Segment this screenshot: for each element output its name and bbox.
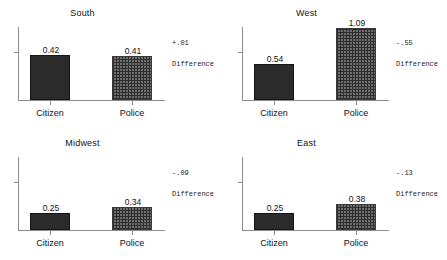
difference-value: +.01 xyxy=(172,40,230,47)
difference-annotation: -.55 Difference xyxy=(396,40,447,68)
bar-citizen: 0.54 xyxy=(254,64,294,100)
x-axis-label-citizen: Citizen xyxy=(243,108,305,118)
small-multiples-bar-chart-figure: South 0.42 0.41 Citizen Police +.01 Diff… xyxy=(0,0,447,260)
x-axis-tick-police xyxy=(132,100,133,105)
y-axis-tick xyxy=(14,52,18,53)
difference-caption: Difference xyxy=(396,191,447,198)
x-axis-tick-police xyxy=(132,230,133,235)
x-axis-label-police: Police xyxy=(325,238,387,248)
panel-title: East xyxy=(224,138,389,148)
difference-annotation: -.13 Difference xyxy=(396,170,447,198)
chart-panel-midwest: Midwest 0.25 0.34 Citizen Police -.09 Di… xyxy=(0,130,223,260)
difference-value: -.09 xyxy=(172,170,230,177)
bar-value-label: 1.09 xyxy=(331,18,383,29)
bar-value-label: 0.41 xyxy=(107,46,159,57)
chart-panel-east: East 0.25 0.38 Citizen Police -.13 Diffe… xyxy=(224,130,447,260)
difference-caption: Difference xyxy=(172,61,230,68)
bar-citizen: 0.42 xyxy=(30,55,70,100)
difference-value: -.55 xyxy=(396,40,447,47)
bar-value-label: 0.34 xyxy=(107,197,159,208)
x-axis-label-police: Police xyxy=(325,108,387,118)
bar-police: 0.38 xyxy=(336,204,376,230)
bar-value-label: 0.54 xyxy=(249,54,301,65)
difference-caption: Difference xyxy=(396,61,447,68)
bar-value-label: 0.42 xyxy=(25,45,77,56)
y-axis-line xyxy=(18,27,19,101)
y-axis-tick xyxy=(14,182,18,183)
panel-title: South xyxy=(0,8,165,18)
y-axis-tick xyxy=(238,182,242,183)
x-axis-label-police: Police xyxy=(101,108,163,118)
bar-value-label: 0.25 xyxy=(249,203,301,214)
bar-police: 1.09 xyxy=(336,28,376,100)
x-axis-line xyxy=(18,230,165,231)
bar-police: 0.41 xyxy=(112,56,152,100)
x-axis-tick-police xyxy=(356,230,357,235)
x-axis-label-citizen: Citizen xyxy=(19,238,81,248)
bar-citizen: 0.25 xyxy=(254,213,294,230)
difference-caption: Difference xyxy=(172,191,230,198)
difference-annotation: -.09 Difference xyxy=(172,170,230,198)
x-axis-line xyxy=(242,230,389,231)
x-axis-tick-citizen xyxy=(274,100,275,105)
x-axis-label-citizen: Citizen xyxy=(19,108,81,118)
x-axis-tick-police xyxy=(356,100,357,105)
x-axis-tick-citizen xyxy=(50,100,51,105)
panel-title: Midwest xyxy=(0,138,165,148)
x-axis-label-police: Police xyxy=(101,238,163,248)
x-axis-label-citizen: Citizen xyxy=(243,238,305,248)
x-axis-line xyxy=(18,100,165,101)
difference-value: -.13 xyxy=(396,170,447,177)
y-axis-line xyxy=(242,27,243,101)
x-axis-line xyxy=(242,100,389,101)
bar-police: 0.34 xyxy=(112,207,152,230)
y-axis-tick xyxy=(238,52,242,53)
chart-panel-south: South 0.42 0.41 Citizen Police +.01 Diff… xyxy=(0,0,223,130)
x-axis-tick-citizen xyxy=(50,230,51,235)
difference-annotation: +.01 Difference xyxy=(172,40,230,68)
y-axis-line xyxy=(242,157,243,231)
x-axis-tick-citizen xyxy=(274,230,275,235)
bar-value-label: 0.25 xyxy=(25,203,77,214)
bar-citizen: 0.25 xyxy=(30,213,70,230)
panel-title: West xyxy=(224,8,389,18)
bar-value-label: 0.38 xyxy=(331,194,383,205)
y-axis-line xyxy=(18,157,19,231)
chart-panel-west: West 0.54 1.09 Citizen Police -.55 Diffe… xyxy=(224,0,447,130)
